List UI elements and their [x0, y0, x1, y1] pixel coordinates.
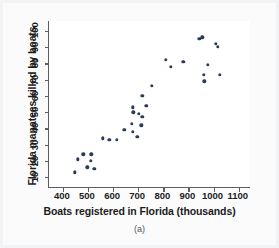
- data-point: [89, 159, 92, 162]
- data-point: [145, 104, 148, 107]
- data-point: [123, 128, 126, 131]
- x-axis-tick-label: 900: [180, 190, 196, 201]
- y-axis-tick-mark: [45, 177, 49, 178]
- y-axis-tick-label: 50: [28, 105, 42, 119]
- x-axis-tick-labels: 40050060070080090010001100: [48, 190, 250, 204]
- data-point: [150, 84, 153, 87]
- data-point: [90, 153, 93, 156]
- y-axis-tick-mark: [45, 96, 49, 97]
- data-point: [216, 45, 219, 48]
- data-point: [201, 36, 204, 39]
- y-axis-tick-label: 60: [28, 89, 42, 103]
- data-point: [218, 73, 221, 76]
- y-axis-tick-mark: [45, 47, 49, 48]
- figure-container: Florida manatees killed by boats 1020304…: [0, 0, 279, 248]
- data-point: [141, 94, 144, 97]
- y-axis-tick-label: 40: [28, 121, 42, 135]
- figure-caption: (a): [0, 224, 279, 234]
- y-axis-tick-mark: [45, 63, 49, 64]
- y-axis-tick-mark: [45, 112, 49, 113]
- data-point: [86, 166, 89, 169]
- y-axis-tick-label: 20: [28, 154, 42, 168]
- data-point: [81, 153, 84, 156]
- x-axis-tick-label: 700: [129, 190, 145, 201]
- data-point: [132, 110, 135, 113]
- data-point: [131, 130, 134, 133]
- data-point: [206, 63, 209, 66]
- y-axis-tick-mark: [45, 128, 49, 129]
- data-point: [93, 167, 96, 170]
- data-point: [202, 73, 205, 76]
- x-axis-tick-label: 1100: [227, 190, 248, 201]
- data-point: [76, 158, 79, 161]
- y-axis-tick-label: 90: [28, 40, 42, 54]
- y-axis-tick-label: 80: [28, 56, 42, 70]
- x-axis-tick-label: 1000: [202, 190, 223, 201]
- y-axis-tick-mark: [45, 161, 49, 162]
- data-point: [169, 65, 172, 68]
- x-axis-tick-label: 800: [154, 190, 170, 201]
- data-point: [203, 80, 206, 83]
- y-axis-tick-mark: [45, 31, 49, 32]
- data-point: [141, 115, 144, 118]
- data-point: [140, 123, 143, 126]
- plot-area: [48, 21, 250, 188]
- y-axis-tick-label: 10: [28, 170, 42, 184]
- data-point: [73, 171, 76, 174]
- y-axis-tick-mark: [45, 80, 49, 81]
- x-axis-tick-label: 600: [104, 190, 120, 201]
- y-axis-tick-label: 70: [28, 73, 42, 87]
- data-point: [115, 138, 118, 141]
- y-axis-tick-mark: [45, 145, 49, 146]
- x-axis-tick-label: 500: [79, 190, 95, 201]
- y-axis-tick-label: 30: [28, 138, 42, 152]
- data-point: [130, 122, 133, 125]
- data-point: [164, 58, 167, 61]
- data-point: [135, 135, 138, 138]
- y-axis-tick-labels: 102030405060708090100: [28, 18, 42, 188]
- y-axis-tick-label: 100: [28, 24, 42, 38]
- data-point: [101, 136, 104, 139]
- data-point: [182, 60, 185, 63]
- x-axis-title: Boats registered in Florida (thousands): [0, 205, 279, 217]
- data-point: [131, 106, 134, 109]
- x-axis-tick-label: 400: [54, 190, 70, 201]
- data-point: [108, 138, 111, 141]
